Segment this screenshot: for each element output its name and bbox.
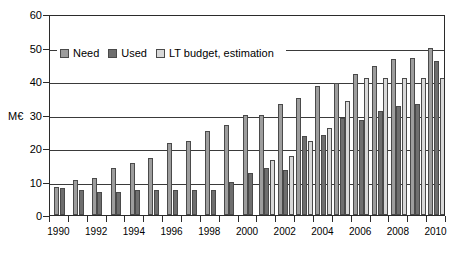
bar (440, 78, 444, 215)
bar (391, 59, 396, 215)
bar (353, 74, 358, 215)
x-axis-tick-mark (351, 216, 352, 222)
y-axis-tick-mark (43, 216, 49, 217)
y-axis-tick-label: 40 (0, 77, 42, 88)
x-axis-tick-mark (143, 216, 144, 222)
bar (359, 120, 364, 215)
bar (60, 188, 65, 215)
bar (264, 168, 269, 215)
x-axis-ticks (49, 216, 445, 223)
x-axis-tick-mark (124, 216, 125, 222)
x-axis-tick-label: 1992 (76, 227, 116, 237)
bar (402, 78, 407, 215)
bar (383, 78, 388, 215)
bar (327, 128, 332, 215)
y-axis-tick-label: 20 (0, 144, 42, 155)
bar (289, 156, 294, 215)
x-axis-tick-label: 2006 (340, 227, 380, 237)
bar (434, 61, 439, 215)
y-axis-tick-mark (43, 183, 49, 184)
legend-label-lt-budget: LT budget, estimation (169, 48, 274, 59)
y-axis-tick-mark (43, 116, 49, 117)
x-axis-tick-mark (219, 216, 220, 222)
x-axis-tick-label: 2002 (265, 227, 305, 237)
bar (211, 190, 216, 215)
bar (135, 190, 140, 215)
legend-item-lt-budget: LT budget, estimation (156, 48, 274, 59)
bar (92, 178, 97, 215)
x-axis-tick-mark (313, 216, 314, 222)
bar (111, 168, 116, 215)
x-axis-tick-label: 1994 (114, 227, 154, 237)
bar (340, 118, 345, 215)
x-axis-labels: 1990199219941996199820002002200420062008… (49, 227, 445, 241)
bar (396, 106, 401, 215)
bar (283, 170, 288, 215)
bar (224, 125, 229, 215)
bar (186, 141, 191, 215)
x-axis-tick-mark (445, 216, 446, 222)
bar (345, 101, 350, 215)
bar (278, 104, 283, 215)
legend-item-used: Used (108, 48, 147, 59)
bar-chart: M€ 1990199219941996199820002002200420062… (0, 0, 454, 253)
bar (415, 104, 420, 215)
x-axis-tick-mark (275, 216, 276, 222)
y-axis-tick-mark (43, 15, 49, 16)
bar (192, 190, 197, 215)
x-axis-tick-mark (426, 216, 427, 222)
bar (296, 98, 301, 215)
bar (79, 190, 84, 215)
legend-swatch-need (60, 49, 69, 58)
x-axis-tick-label: 2008 (378, 227, 418, 237)
bar (243, 115, 248, 216)
x-axis-tick-mark (68, 216, 69, 222)
y-axis-tick-mark (43, 49, 49, 50)
bar (372, 66, 377, 215)
legend-swatch-lt-budget (156, 49, 165, 58)
x-axis-tick-mark (106, 216, 107, 222)
bar (205, 131, 210, 215)
x-axis-tick-label: 1996 (152, 227, 192, 237)
bar (302, 136, 307, 215)
legend-label-need: Need (73, 48, 99, 59)
x-axis-tick-mark (200, 216, 201, 222)
x-axis-tick-mark (162, 216, 163, 222)
bar (259, 115, 264, 216)
y-axis-tick-mark (43, 149, 49, 150)
legend-label-used: Used (121, 48, 147, 59)
bar (173, 190, 178, 215)
legend-item-need: Need (60, 48, 99, 59)
x-axis-tick-mark (294, 216, 295, 222)
y-axis-tick-label: 0 (0, 211, 42, 222)
x-axis-tick-mark (181, 216, 182, 222)
bar (154, 190, 159, 215)
x-axis-tick-mark (256, 216, 257, 222)
y-axis-tick-label: 30 (0, 111, 42, 122)
x-axis-tick-mark (49, 216, 50, 222)
bar (229, 182, 234, 216)
chart-legend: Need Used LT budget, estimation (57, 44, 286, 63)
bar (116, 192, 121, 215)
legend-swatch-used (108, 49, 117, 58)
bar (364, 78, 369, 215)
x-axis-tick-mark (87, 216, 88, 222)
bar (334, 83, 339, 215)
x-axis-tick-label: 1990 (38, 227, 78, 237)
y-axis-tick-mark (43, 82, 49, 83)
y-axis-tick-label: 10 (0, 178, 42, 189)
bar (270, 160, 275, 215)
x-axis-tick-mark (407, 216, 408, 222)
bar (130, 163, 135, 215)
x-axis-tick-mark (370, 216, 371, 222)
bar (308, 141, 313, 215)
x-axis-tick-label: 2004 (302, 227, 342, 237)
bar (54, 187, 59, 215)
bar (97, 192, 102, 215)
bar (167, 143, 172, 215)
bar (148, 158, 153, 215)
bar (378, 111, 383, 215)
x-axis-tick-mark (238, 216, 239, 222)
bar (315, 86, 320, 215)
x-axis-tick-mark (388, 216, 389, 222)
